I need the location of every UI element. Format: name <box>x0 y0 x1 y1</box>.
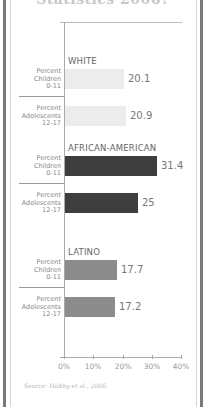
row-separator <box>19 96 65 97</box>
x-tick <box>93 355 94 359</box>
source-note: Source: Holtby et al., 2006. <box>24 382 108 389</box>
bar <box>65 156 157 176</box>
bar <box>65 260 117 280</box>
row-label: PercentAdolescents12-17 <box>14 105 61 128</box>
frame-inner-line-left <box>10 0 11 407</box>
chart-title: Statistics 2006? <box>20 0 186 7</box>
x-tick <box>152 355 153 359</box>
row-label: PercentAdolescents12-17 <box>14 296 61 319</box>
bar <box>65 193 138 213</box>
frame-inner-line-right <box>196 0 197 407</box>
x-axis <box>60 357 182 358</box>
x-tick <box>64 355 65 359</box>
row-separator <box>19 287 65 288</box>
bar-value-label: 17.2 <box>119 301 141 312</box>
bar-value-label: 20.1 <box>128 73 150 84</box>
x-tick-label: 20% <box>108 362 138 371</box>
title-rule <box>60 22 182 23</box>
frame-border-right <box>200 0 203 407</box>
bar-value-label: 25 <box>142 197 155 208</box>
row-label: PercentChildren0-11 <box>14 259 61 282</box>
x-tick-label: 30% <box>137 362 167 371</box>
bar <box>65 106 126 126</box>
row-label: PercentChildren0-11 <box>14 155 61 178</box>
bar <box>65 69 124 89</box>
bar-value-label: 17.7 <box>121 264 143 275</box>
group-label: AFRICAN-AMERICAN <box>68 143 156 153</box>
bar-value-label: 20.9 <box>130 110 152 121</box>
frame-border-left <box>3 0 6 407</box>
row-label: PercentAdolescents12-17 <box>14 192 61 215</box>
x-tick <box>123 355 124 359</box>
bar <box>65 297 115 317</box>
x-tick <box>181 355 182 359</box>
group-label: LATINO <box>68 247 100 257</box>
row-label: PercentChildren0-11 <box>14 68 61 91</box>
x-tick-label: 0% <box>49 362 79 371</box>
row-separator <box>19 183 65 184</box>
bar-value-label: 31.4 <box>161 160 183 171</box>
group-label: WHITE <box>68 56 97 66</box>
x-tick-label: 40% <box>166 362 196 371</box>
x-tick-label: 10% <box>78 362 108 371</box>
